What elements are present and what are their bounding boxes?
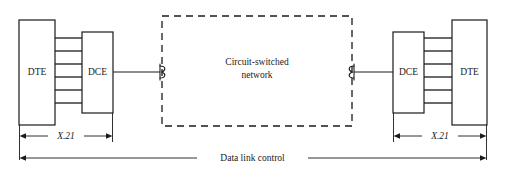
x21-left-label: X.21 bbox=[56, 131, 75, 141]
dimension-x21-left: X.21 bbox=[20, 131, 113, 141]
dte-right-node: DTE bbox=[452, 20, 487, 125]
trunk-right bbox=[349, 64, 393, 80]
x21-right-arrowhead-start bbox=[394, 133, 401, 139]
dimension-x21-right: X.21 bbox=[394, 131, 487, 141]
dce-right-node: DCE bbox=[393, 32, 424, 113]
bus-left bbox=[55, 38, 82, 103]
circuit-switched-network: Circuit-switched network bbox=[162, 16, 352, 126]
trunk-left bbox=[113, 64, 165, 80]
network-label-line2: network bbox=[241, 70, 272, 80]
dte-left-label: DTE bbox=[28, 67, 47, 77]
dimension-data-link-control: Data link control bbox=[20, 153, 487, 163]
x21-network-diagram: DTE DCE Circuit-switched network bbox=[0, 0, 505, 175]
x21-right-label: X.21 bbox=[430, 131, 449, 141]
dlc-arrowhead-start bbox=[20, 155, 27, 161]
dte-right-label: DTE bbox=[460, 67, 479, 77]
bus-right bbox=[424, 38, 452, 103]
dte-left-node: DTE bbox=[19, 20, 55, 125]
network-label-line1: Circuit-switched bbox=[225, 57, 289, 67]
dce-right-label: DCE bbox=[399, 67, 418, 77]
figure-canvas: DTE DCE Circuit-switched network bbox=[0, 0, 505, 175]
x21-left-arrowhead-end bbox=[106, 133, 113, 139]
dce-left-label: DCE bbox=[88, 67, 107, 77]
dlc-arrowhead-end bbox=[480, 155, 487, 161]
x21-right-arrowhead-end bbox=[480, 133, 487, 139]
x21-left-arrowhead-start bbox=[20, 133, 27, 139]
dce-left-node: DCE bbox=[82, 32, 113, 113]
data-link-control-label: Data link control bbox=[220, 153, 285, 163]
